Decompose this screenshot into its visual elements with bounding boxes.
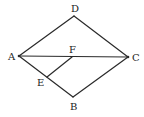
point-label-e: E bbox=[37, 77, 44, 88]
point-label-f: F bbox=[69, 44, 76, 55]
segment-ac bbox=[19, 56, 128, 57]
segment-ef bbox=[47, 57, 72, 77]
point-label-a: A bbox=[7, 51, 16, 62]
point-label-d: D bbox=[71, 3, 79, 14]
point-label-c: C bbox=[132, 52, 140, 63]
vertex-dot-c bbox=[127, 56, 130, 59]
segment-dc bbox=[74, 16, 128, 57]
segment-cb bbox=[73, 57, 128, 97]
geometry-svg: ABCDEF bbox=[0, 0, 144, 117]
segment-ad bbox=[19, 16, 74, 56]
vertex-dot-a bbox=[18, 55, 21, 58]
geometry-figure: ABCDEF bbox=[0, 0, 144, 117]
point-label-b: B bbox=[70, 101, 77, 112]
